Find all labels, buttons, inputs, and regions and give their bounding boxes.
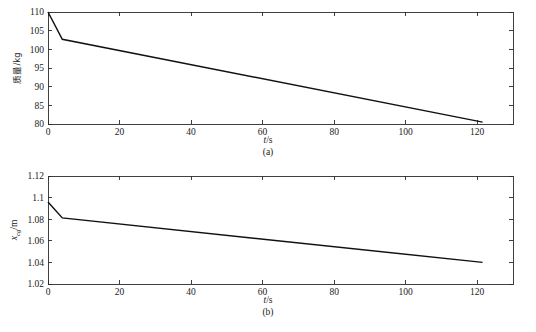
- chart-a-axes-frame: [48, 12, 513, 124]
- chart-a-x-axis-label: t/s: [0, 135, 536, 145]
- chart-b-yticklabel: 1.06: [27, 236, 44, 246]
- chart-b-x-axis-label: t/s: [0, 295, 536, 305]
- chart-b-y-axis-label: xcg/m: [9, 205, 21, 255]
- chart-b-caption: (b): [0, 307, 536, 317]
- chart-a-caption: (a): [0, 147, 536, 157]
- chart-a-yticklabel: 95: [35, 63, 45, 73]
- chart-b-axes-frame: [48, 176, 513, 284]
- figure-container: 02040608010012080859095100105110 质量/kg t…: [0, 0, 536, 332]
- chart-a-yticklabel: 105: [30, 26, 45, 36]
- chart-b-series-x_cg: [48, 202, 483, 262]
- chart-a-yticklabel: 85: [35, 101, 45, 111]
- chart-b-yticklabel: 1.08: [27, 215, 44, 225]
- chart-a-yticklabel: 110: [30, 7, 44, 17]
- chart-a-y-axis-label: 质量/kg: [10, 38, 22, 98]
- chart-a-series-mass: [48, 12, 483, 122]
- chart-b-yticklabel: 1.12: [27, 171, 44, 181]
- chart-b-yticklabel: 1.04: [27, 258, 44, 268]
- chart-panel-b: 0204060801001201.021.041.061.081.11.12 x…: [0, 166, 536, 332]
- chart-panel-a: 02040608010012080859095100105110 质量/kg t…: [0, 0, 536, 166]
- chart-a-yticklabel: 80: [35, 119, 45, 129]
- chart-a-yticklabel: 90: [35, 82, 45, 92]
- chart-a-yticklabel: 100: [30, 45, 45, 55]
- chart-b-yticklabel: 1.1: [32, 193, 44, 203]
- chart-b-yticklabel: 1.02: [27, 279, 44, 289]
